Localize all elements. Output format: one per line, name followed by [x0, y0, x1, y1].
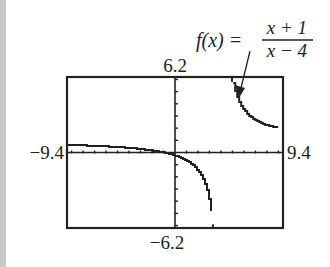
function-denominator: x − 4 — [266, 40, 308, 61]
function-lhs: f(x) = — [196, 29, 242, 52]
pointer-arrow-icon — [235, 51, 250, 98]
xmax-label: 9.4 — [287, 142, 311, 163]
xmin-label: −9.4 — [30, 142, 65, 163]
left-branch — [67, 145, 211, 211]
axes — [67, 77, 283, 228]
function-label: f(x) = x + 1 x − 4 — [196, 17, 313, 61]
ymin-label: −6.2 — [150, 232, 184, 253]
function-numerator: x + 1 — [266, 17, 307, 38]
graph-figure: 6.2 −6.2 −9.4 9.4 f(x) = x + 1 x − 4 — [0, 0, 330, 267]
ymax-label: 6.2 — [163, 55, 187, 76]
